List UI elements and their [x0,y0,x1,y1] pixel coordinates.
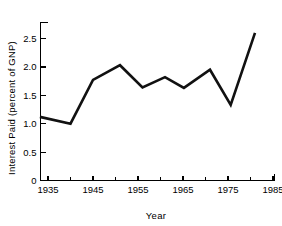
chart-axes [41,23,275,181]
x-tick-label: 1935 [37,184,58,195]
y-tick-label: 2.0 [23,61,36,72]
y-tick-label: 0 [31,175,36,186]
x-tick-label: 1975 [217,184,238,195]
chart-canvas: 00.51.01.52.02.5 19351945195519651975198… [0,0,282,226]
y-tick-label: 0.5 [23,147,36,158]
y-axis-tick-labels: 00.51.01.52.02.5 [23,33,36,186]
axis-frame [41,23,275,181]
y-tick-label: 1.0 [23,118,36,129]
y-tick-label: 2.5 [23,33,36,44]
x-tick-label: 1955 [127,184,148,195]
y-axis-title: Interest Paid (percent of GNP) [6,41,17,175]
line-chart-figure: 00.51.01.52.02.5 19351945195519651975198… [0,0,282,226]
x-axis-tick-labels: 193519451955196519751985 [37,184,282,195]
x-tick-label: 1985 [262,184,282,195]
chart-data-series [40,33,255,124]
y-tick-label: 1.5 [23,90,36,101]
x-tick-label: 1945 [82,184,103,195]
chart-tick-marks [41,39,274,181]
x-axis-title: Year [146,210,166,221]
data-line-interest-paid [40,33,255,124]
x-tick-label: 1965 [172,184,193,195]
